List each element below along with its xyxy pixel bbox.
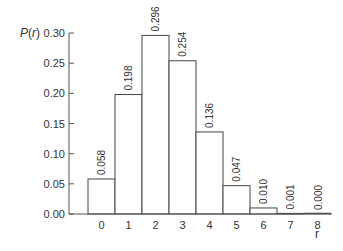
x-tick-label-0: 0: [98, 219, 104, 231]
value-label-7: 0.001: [286, 184, 297, 209]
y-axis-label: P(r): [20, 26, 40, 40]
bar-1: [115, 95, 142, 214]
x-axis-label: r: [315, 227, 319, 241]
value-label-5: 0.047: [232, 156, 243, 181]
value-label-2: 0.296: [151, 6, 162, 31]
x-tick-label-3: 3: [179, 219, 185, 231]
y-tick-label: 0.25: [44, 57, 65, 69]
x-tick-label-4: 4: [206, 219, 212, 231]
bar-5: [223, 186, 250, 214]
x-tick-label-1: 1: [125, 219, 131, 231]
value-label-1: 0.198: [124, 65, 135, 90]
bar-6: [250, 208, 277, 214]
bar-4: [196, 132, 223, 214]
value-label-0: 0.058: [97, 150, 108, 175]
y-tick-label: 0.00: [44, 208, 65, 220]
bar-chart: 0.05800.19810.29620.25430.13640.04750.01…: [0, 0, 343, 251]
x-tick-label-2: 2: [152, 219, 158, 231]
y-tick-label: 0.05: [44, 178, 65, 190]
bar-3: [169, 61, 196, 214]
y-tick-label: 0.30: [44, 27, 65, 39]
x-tick-label-5: 5: [233, 219, 239, 231]
value-label-6: 0.010: [259, 179, 270, 204]
y-tick-label: 0.15: [44, 118, 65, 130]
value-label-3: 0.254: [178, 31, 189, 56]
bar-2: [142, 35, 169, 214]
bar-0: [88, 179, 115, 214]
y-tick-label: 0.20: [44, 87, 65, 99]
value-label-4: 0.136: [205, 102, 216, 127]
value-label-8: 0.000: [313, 185, 324, 210]
y-tick-label: 0.10: [44, 148, 65, 160]
x-tick-label-6: 6: [260, 219, 266, 231]
x-tick-label-7: 7: [287, 219, 293, 231]
